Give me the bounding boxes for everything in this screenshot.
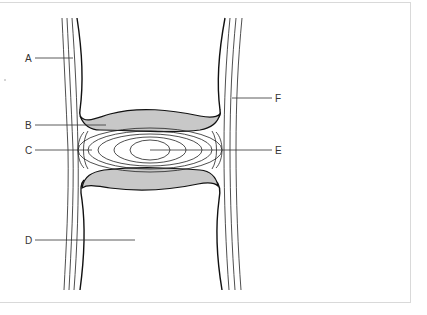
upper-endplate — [80, 110, 220, 132]
label-a: A — [25, 53, 32, 64]
label-c: C — [25, 145, 32, 156]
stray-dot — [4, 79, 5, 80]
disc-diagram: A B C D E F — [0, 0, 427, 315]
label-e: E — [275, 145, 282, 156]
label-d: D — [25, 235, 32, 246]
leader-lines — [35, 58, 272, 240]
left-ligament-lines — [62, 18, 84, 290]
label-b: B — [25, 120, 32, 131]
label-f: F — [275, 93, 281, 104]
right-ligament-lines — [215, 18, 242, 290]
lower-endplate — [82, 168, 218, 190]
